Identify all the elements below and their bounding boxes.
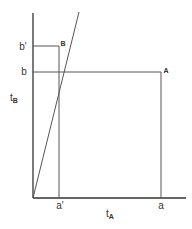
x-axis-label: tA bbox=[106, 208, 114, 220]
y-tick-b-prime: b' bbox=[19, 41, 27, 52]
point-label-a: A bbox=[163, 67, 168, 74]
x-tick-a-prime: a' bbox=[56, 200, 64, 211]
diagram-canvas: b' b a' a B A tB tA bbox=[0, 0, 192, 229]
y-axis-label: tB bbox=[10, 92, 18, 104]
y-tick-b: b bbox=[21, 66, 27, 77]
point-label-b: B bbox=[60, 40, 65, 47]
x-tick-a: a bbox=[158, 200, 164, 211]
diagonal-line bbox=[33, 12, 79, 198]
y-axis-label-sub: B bbox=[13, 97, 18, 104]
x-axis-label-sub: A bbox=[109, 213, 114, 220]
